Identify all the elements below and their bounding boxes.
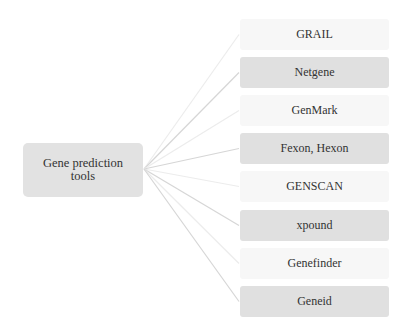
node-geneid: Geneid bbox=[240, 286, 389, 317]
node-label: GenMark bbox=[292, 103, 338, 118]
node-fexon-hexon: Fexon, Hexon bbox=[240, 133, 389, 164]
connector-line bbox=[144, 73, 239, 170]
root-label-line2: tools bbox=[71, 169, 95, 183]
node-label: GRAIL bbox=[296, 27, 333, 42]
node-label: Geneid bbox=[297, 294, 332, 309]
connector-line bbox=[144, 169, 239, 264]
node-genmark: GenMark bbox=[240, 95, 389, 126]
node-grail: GRAIL bbox=[240, 19, 389, 50]
node-genefinder: Genefinder bbox=[240, 248, 389, 279]
node-label: Genefinder bbox=[288, 256, 342, 271]
node-netgene: Netgene bbox=[240, 57, 389, 88]
root-label-line1: Gene prediction bbox=[43, 156, 123, 170]
root-node: Gene predictiontools bbox=[23, 143, 143, 197]
node-label: Netgene bbox=[295, 65, 335, 80]
connector-line bbox=[144, 149, 239, 170]
node-label: GENSCAN bbox=[286, 179, 343, 194]
connector-line bbox=[144, 35, 239, 170]
connector-line bbox=[144, 111, 239, 170]
node-label: Fexon, Hexon bbox=[281, 141, 349, 156]
node-xpound: xpound bbox=[240, 210, 389, 241]
connector-line bbox=[144, 169, 239, 302]
node-label: xpound bbox=[297, 218, 333, 233]
node-genscan: GENSCAN bbox=[240, 171, 389, 202]
